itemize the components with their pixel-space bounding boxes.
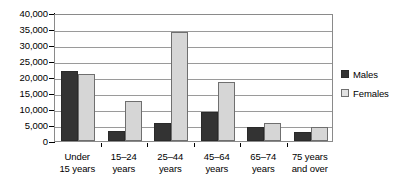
legend-swatch-icon bbox=[341, 89, 349, 97]
legend-swatch-icon bbox=[341, 70, 349, 78]
y-axis-tick-label: 10,000 bbox=[0, 105, 48, 115]
bar-males bbox=[154, 123, 171, 141]
x-axis-group-label-line: years bbox=[101, 163, 148, 175]
bar-males bbox=[61, 71, 78, 141]
x-axis-group-label-line: years bbox=[240, 163, 287, 175]
x-axis-group-label-line: 65–74 bbox=[240, 151, 287, 163]
x-axis-group-label-line: 15 years bbox=[54, 163, 101, 175]
bar-females bbox=[125, 101, 142, 141]
y-axis-tick-label: 40,000 bbox=[0, 9, 48, 19]
x-axis-group-label-line: Under bbox=[54, 151, 101, 163]
bar-females bbox=[218, 82, 235, 141]
bar-males bbox=[108, 131, 125, 141]
x-axis-group-label: 45–64years bbox=[194, 151, 241, 174]
bar-females bbox=[264, 123, 281, 141]
x-axis-group-label: 15–24years bbox=[101, 151, 148, 174]
x-axis-group-label-line: 25–44 bbox=[147, 151, 194, 163]
x-axis-group-label-line: years bbox=[147, 163, 194, 175]
legend-item-females: Females bbox=[341, 85, 403, 101]
x-axis-group-label-line: 45–64 bbox=[194, 151, 241, 163]
y-axis-tick-label: 5,000 bbox=[0, 121, 48, 131]
y-axis-tick-label: 0 bbox=[0, 137, 48, 147]
x-axis-group-label: 75 yearsand over bbox=[287, 151, 334, 174]
x-axis-tick-mark bbox=[194, 143, 195, 147]
x-axis-tick-mark bbox=[101, 143, 102, 147]
x-axis-tick-mark bbox=[147, 143, 148, 147]
y-axis-tick-label: 35,000 bbox=[0, 25, 48, 35]
y-axis: 05,00010,00015,00020,00025,00030,00035,0… bbox=[0, 0, 48, 143]
bar-females bbox=[78, 74, 95, 141]
x-axis: Under15 years15–24years25–44years45–64ye… bbox=[54, 145, 333, 191]
y-axis-tick-label: 30,000 bbox=[0, 41, 48, 51]
x-axis-group-label: Under15 years bbox=[54, 151, 101, 174]
plot-area bbox=[54, 14, 333, 142]
bar-males bbox=[294, 132, 311, 141]
bar-males bbox=[201, 112, 218, 141]
bar-females bbox=[311, 127, 328, 141]
chart-legend: MalesFemales bbox=[341, 66, 403, 104]
bar-males bbox=[247, 127, 264, 141]
bar-females bbox=[171, 32, 188, 141]
x-axis-group-label-line: 75 years bbox=[287, 151, 334, 163]
legend-label: Females bbox=[353, 88, 389, 99]
x-axis-group-label: 65–74years bbox=[240, 151, 287, 174]
y-axis-tick-label: 20,000 bbox=[0, 73, 48, 83]
legend-label: Males bbox=[353, 69, 378, 80]
y-axis-tick-label: 15,000 bbox=[0, 89, 48, 99]
bar-chart: 05,00010,00015,00020,00025,00030,00035,0… bbox=[0, 0, 404, 196]
x-axis-tick-mark bbox=[240, 143, 241, 147]
bars-layer bbox=[55, 15, 332, 141]
y-axis-tick-label: 25,000 bbox=[0, 57, 48, 67]
x-axis-group-label-line: years bbox=[194, 163, 241, 175]
x-axis-group-label: 25–44years bbox=[147, 151, 194, 174]
legend-item-males: Males bbox=[341, 66, 403, 82]
x-axis-tick-mark bbox=[287, 143, 288, 147]
x-axis-group-label-line: 15–24 bbox=[101, 151, 148, 163]
x-axis-group-label-line: and over bbox=[287, 163, 334, 175]
